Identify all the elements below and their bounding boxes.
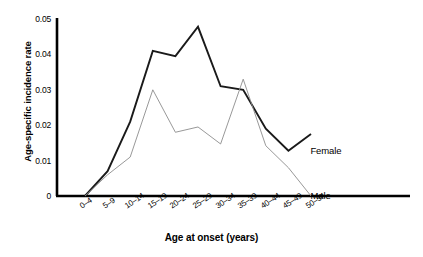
- series-line-female: [85, 27, 311, 196]
- data-series-layer: [85, 27, 311, 196]
- plot-area: [0, 0, 423, 257]
- chart-container: Age-specific incidence rate Age at onset…: [0, 0, 423, 257]
- series-label-male: Male: [310, 190, 330, 201]
- series-line-male: [85, 79, 311, 196]
- series-label-female: Female: [310, 145, 341, 156]
